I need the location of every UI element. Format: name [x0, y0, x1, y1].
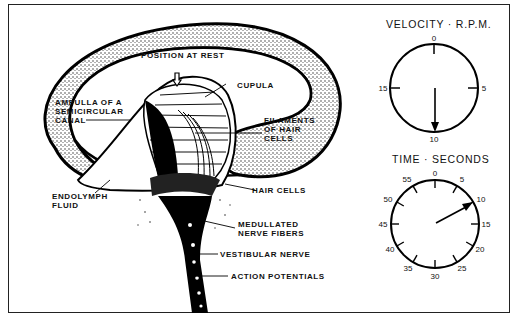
velocity-dial — [390, 44, 478, 132]
time-dial — [391, 180, 479, 268]
time-tick-20: 20 — [476, 245, 485, 254]
label-cupula: CUPULA — [237, 81, 274, 90]
label-hair-cells: HAIR CELLS — [252, 186, 306, 195]
time-tick-5: 5 — [460, 175, 464, 184]
hair-cells — [150, 173, 220, 196]
label-filaments: FILAMENTS OF HAIR CELLS — [264, 116, 315, 143]
velocity-title: VELOCITY · R.P.M. — [386, 18, 491, 30]
vestibular-nerve — [158, 196, 212, 313]
velocity-tick-5: 5 — [482, 84, 486, 93]
label-action-potentials: ACTION POTENTIALS — [231, 272, 325, 281]
time-tick-0: 0 — [433, 169, 437, 178]
label-ampulla: AMPULLA OF A SEMICIRCULAR CANAL — [55, 98, 124, 125]
time-tick-50: 50 — [384, 195, 393, 204]
label-endolymph: ENDOLYMPH FLUID — [52, 192, 108, 210]
time-tick-15: 15 — [482, 220, 491, 229]
time-tick-10: 10 — [477, 195, 486, 204]
time-tick-25: 25 — [458, 264, 467, 273]
time-title: TIME · SECONDS — [392, 153, 490, 165]
label-vestibular-nerve: VESTIBULAR NERVE — [220, 250, 310, 259]
time-pointer — [436, 207, 466, 223]
velocity-tick-10: 10 — [430, 135, 439, 144]
label-position-at-rest: POSITION AT REST — [141, 51, 224, 60]
time-tick-55: 55 — [403, 175, 412, 184]
velocity-tick-15: 15 — [379, 84, 388, 93]
label-medullated: MEDULLATED NERVE FIBERS — [238, 220, 304, 238]
velocity-tick-0: 0 — [432, 34, 436, 43]
time-tick-45: 45 — [379, 220, 388, 229]
time-tick-35: 35 — [404, 264, 413, 273]
time-tick-40: 40 — [386, 245, 395, 254]
time-tick-30: 30 — [431, 272, 440, 281]
